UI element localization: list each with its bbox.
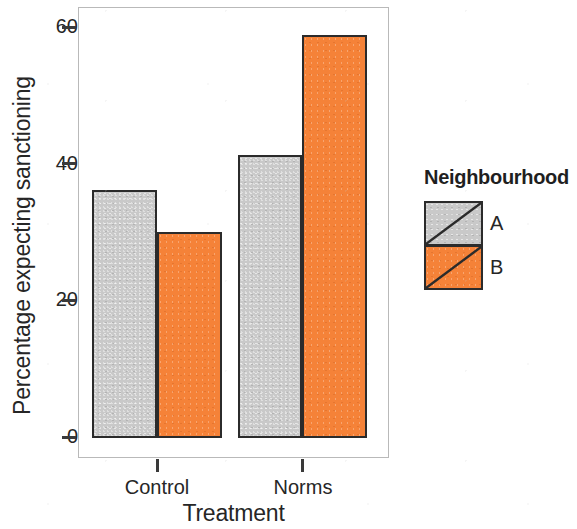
bar-norms-b[interactable] [302,35,367,438]
bar-control-b[interactable] [157,232,222,438]
x-tick-label-norms: Norms [233,476,373,499]
legend-title: Neighbourhood [424,166,569,189]
bar-control-a[interactable] [92,190,157,438]
x-tick-mark-norms [301,459,304,472]
legend-swatch-b[interactable] [424,245,483,290]
x-tick-mark-control [156,459,159,472]
legend-label-b: B [490,256,503,279]
bar-chart-figure: Percentage expecting sanctioning 60 40 2… [0,0,577,529]
y-tick-mark-60 [62,26,76,29]
diagonal-slash-icon [426,203,481,244]
x-tick-label-control: Control [87,476,227,499]
y-tick-mark-40 [62,162,76,165]
y-tick-mark-20 [62,299,76,302]
y-axis: 60 40 20 0 [0,0,78,529]
bar-norms-a[interactable] [238,155,302,438]
legend: Neighbourhood A B [418,160,577,300]
legend-label-a: A [490,212,503,235]
plot-panel [78,7,389,458]
diagonal-slash-icon [426,247,481,288]
y-tick-mark-0 [62,436,76,439]
x-axis-title: Treatment [78,500,389,527]
legend-swatch-a[interactable] [424,201,483,246]
